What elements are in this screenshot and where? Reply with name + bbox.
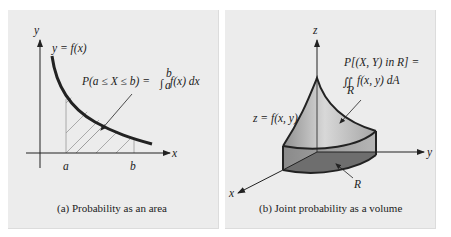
x-axis-3d-label: x (228, 187, 235, 199)
formula-pointer (101, 94, 132, 130)
formula-left: P(a ≤ X ≤ b) = (81, 75, 150, 88)
formula-line1: P[(X, Y) in R] = (343, 56, 419, 69)
caption-a: (a) Probability as an area (57, 202, 167, 215)
panel-a-graph: y x y = f(x) a b P(a ≤ X ≤ b) = ∫ b a f(… (26, 24, 201, 215)
formula-integrand: f(x) dx (170, 75, 201, 88)
density-curve (52, 56, 152, 144)
formula-integrand-b: f(x, y) dA (357, 74, 400, 87)
tick-b-label: b (130, 160, 136, 172)
figure-canvas: y x y = f(x) a b P(a ≤ X ≤ b) = ∫ b a f(… (0, 0, 451, 237)
caption-b: (b) Joint probability as a volume (259, 202, 402, 215)
panel-b-graph: z y x z = f(x, y) R P[(X, Y) in R] = ∬ R… (228, 24, 433, 215)
double-integral-region: R (346, 84, 354, 96)
x-axis-3d (238, 170, 283, 193)
integral-sign: ∫ (159, 77, 164, 90)
curve-label: y = f(x) (51, 42, 87, 55)
x-axis-label: x (171, 147, 178, 159)
region-label: R (353, 178, 361, 190)
tick-a-label: a (63, 160, 69, 172)
y-axis-3d-label: y (426, 146, 433, 159)
surface-label: z = f(x, y) (252, 112, 298, 125)
y-axis-label: y (33, 24, 40, 37)
z-axis-label: z (312, 24, 318, 36)
